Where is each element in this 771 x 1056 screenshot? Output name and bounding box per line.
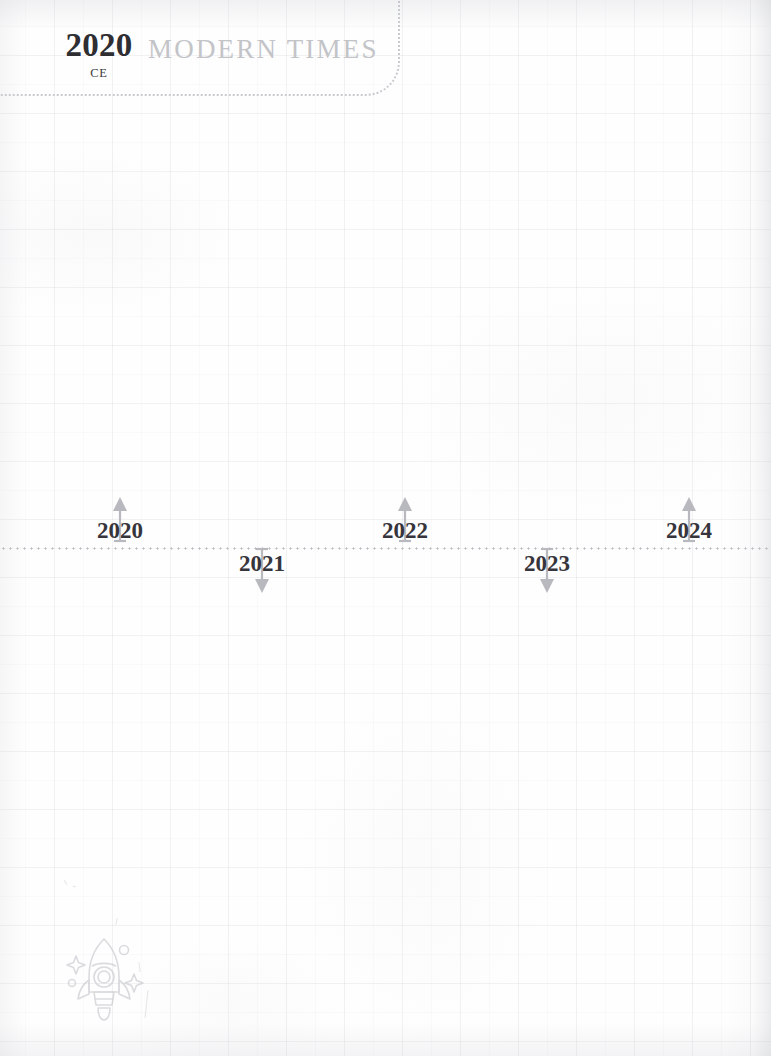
- pencil-mark: [73, 886, 76, 888]
- timeline-tick-2023[interactable]: 2023: [527, 547, 567, 595]
- era-title: MODERN TIMES: [148, 36, 379, 63]
- timeline-tick-label: 2020: [97, 519, 143, 542]
- era-year-block: 2020 CE: [56, 29, 142, 80]
- timeline-tick-2024[interactable]: 2024: [669, 499, 709, 547]
- timeline-tick-label: 2022: [382, 519, 428, 542]
- timeline-tick-2020[interactable]: 2020: [100, 499, 140, 547]
- timeline-axis: [0, 547, 771, 550]
- rocket-icon: [52, 922, 156, 1026]
- timeline-tick-2021[interactable]: 2021: [242, 547, 282, 595]
- era-suffix: CE: [56, 67, 142, 80]
- timeline-tick-label: 2023: [524, 552, 570, 575]
- timeline-tick-2022[interactable]: 2022: [385, 499, 425, 547]
- era-year: 2020: [56, 29, 142, 62]
- timeline: 20202021202220232024: [0, 0, 771, 1056]
- timeline-tick-label: 2024: [666, 519, 712, 542]
- pencil-mark: [64, 880, 67, 885]
- timeline-tick-label: 2021: [239, 552, 285, 575]
- timeline-page: 2020 CE MODERN TIMES 2020202120222023202…: [0, 0, 771, 1056]
